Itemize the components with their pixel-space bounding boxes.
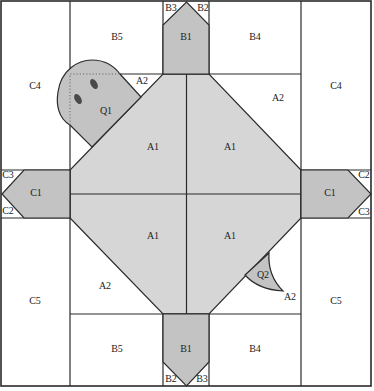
label-left-c2: C2 — [2, 205, 14, 216]
label-top-b5: B5 — [111, 31, 123, 42]
label-top-b3: B3 — [165, 2, 177, 13]
label-bottom-b3: B3 — [196, 373, 208, 384]
label-right-c4: C4 — [330, 80, 342, 91]
label-top-b1: B1 — [180, 31, 192, 42]
label-a2-upper-right: A2 — [272, 92, 284, 103]
label-q1: Q1 — [100, 105, 112, 116]
label-top-b4: B4 — [249, 31, 261, 42]
label-bottom-b2: B2 — [165, 373, 177, 384]
label-top-b2: B2 — [197, 2, 209, 13]
label-a2-lower-left: A2 — [99, 280, 111, 291]
label-a2-small: A2 — [136, 75, 148, 86]
label-right-c3: C3 — [358, 206, 370, 217]
label-a1-lower-left: A1 — [147, 230, 159, 241]
label-left-c4: C4 — [29, 80, 41, 91]
label-bottom-b1: B1 — [180, 343, 192, 354]
label-bottom-b4: B4 — [249, 343, 261, 354]
label-right-c2: C2 — [358, 169, 370, 180]
label-a1-upper-right: A1 — [224, 141, 236, 152]
label-left-c1: C1 — [30, 187, 42, 198]
label-right-c5: C5 — [330, 295, 342, 306]
label-left-c5: C5 — [29, 295, 41, 306]
label-left-c3: C3 — [2, 169, 14, 180]
label-a2-tail: A2 — [284, 291, 296, 302]
label-q2: Q2 — [257, 269, 269, 280]
label-a1-lower-right: A1 — [224, 230, 236, 241]
quilt-diagram: B3 B2 B1 B5 B4 C4 C4 Q1 A2 A2 A1 A1 A1 A… — [0, 0, 374, 391]
label-a1-upper-left: A1 — [147, 141, 159, 152]
label-bottom-b5: B5 — [111, 343, 123, 354]
label-right-c1: C1 — [324, 187, 336, 198]
